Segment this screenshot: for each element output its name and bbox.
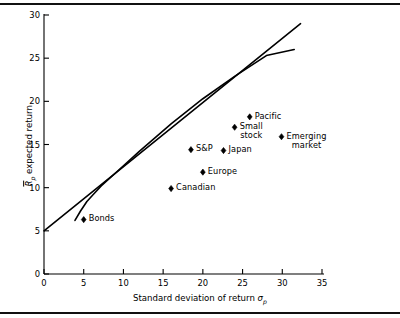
y-axis-subscript: p <box>29 177 36 181</box>
x-axis-tick-label: 0 <box>41 278 46 288</box>
data-point-label: Japan <box>229 145 252 154</box>
x-axis-tick-label: 35 <box>317 278 328 288</box>
data-point-marker <box>189 147 194 153</box>
data-point-label: Emerging market <box>286 132 326 151</box>
data-point-label: Europe <box>208 167 237 176</box>
y-axis-rbar-icon: R <box>24 181 34 187</box>
x-axis-tick-label: 30 <box>277 278 288 288</box>
data-point-marker <box>232 124 237 130</box>
data-point-label: Canadian <box>176 183 215 192</box>
x-axis-subscript: p <box>263 298 267 305</box>
figure-container: 05101520253035051015202530 BondsCanadian… <box>0 0 400 318</box>
x-axis-tick-label: 10 <box>118 278 129 288</box>
x-axis-tick-label: 15 <box>158 278 169 288</box>
data-point-marker <box>81 217 86 223</box>
data-point-label: Pacific <box>255 112 282 121</box>
data-point-marker <box>279 134 284 140</box>
x-axis-title: Standard deviation of return σp <box>0 293 400 305</box>
data-point-label: Bonds <box>89 214 115 223</box>
x-axis-tick-label: 5 <box>81 278 86 288</box>
y-axis-tick-label: 0 <box>22 269 40 279</box>
x-axis-title-text: Standard deviation of return <box>133 293 258 303</box>
y-axis-title-text: expected return <box>24 105 34 177</box>
data-point-marker <box>247 114 252 120</box>
x-axis-tick-label: 25 <box>237 278 248 288</box>
data-point-label: Small stock <box>240 122 263 141</box>
y-axis-title: Rp expected return <box>24 56 36 236</box>
data-point-label: S&P <box>196 144 213 153</box>
x-axis-tick-label: 20 <box>198 278 209 288</box>
data-point-marker <box>200 169 205 175</box>
data-point-marker <box>221 147 226 153</box>
data-point-marker <box>169 185 174 191</box>
chart-plot-area <box>0 0 400 318</box>
y-axis-tick-label: 30 <box>22 10 40 20</box>
